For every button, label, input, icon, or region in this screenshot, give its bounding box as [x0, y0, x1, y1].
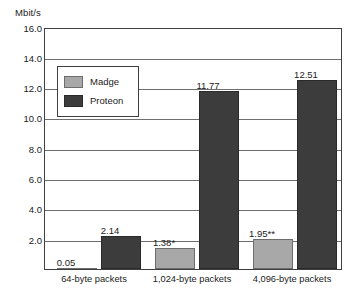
y-axis-tick-label: 12.0 [8, 84, 42, 94]
y-axis-tick-label: 16.0 [8, 24, 42, 34]
x-axis-category-label-64byte: 64-byte packets [44, 274, 144, 284]
data-label-proteon-4096byte: 12.51 [286, 70, 326, 80]
data-label-proteon-1024byte: 11.77 [188, 81, 228, 91]
data-label-madge-64byte: 0.05 [46, 258, 86, 268]
proteon-swatch-icon [64, 95, 83, 107]
y-axis-tick-label: 6.0 [8, 175, 42, 185]
y-axis-tick-label: 2.0 [8, 236, 42, 246]
data-label-madge-1024byte: 1.38* [144, 238, 184, 248]
x-axis-category-label-4096byte: 4,096-byte packets [240, 274, 344, 284]
legend-item-madge[interactable]: Madge [64, 72, 138, 91]
data-label-madge-4096byte: 1.95** [242, 229, 282, 239]
bar-proteon-4096byte[interactable] [297, 80, 337, 269]
bar-chart: Mbit/s 16.0 14.0 12.0 10.0 8.0 6.0 4.0 2… [0, 0, 356, 306]
data-label-proteon-64byte: 2.14 [90, 226, 130, 236]
y-axis-title: Mbit/s [15, 7, 41, 18]
bar-proteon-1024byte[interactable] [199, 91, 239, 269]
madge-swatch-icon [64, 76, 83, 88]
bar-madge-4096byte[interactable] [253, 239, 293, 269]
gridline [45, 59, 341, 60]
y-axis-tick-label: 4.0 [8, 205, 42, 215]
legend-label-proteon: Proteon [90, 96, 123, 106]
bar-madge-1024byte[interactable] [155, 248, 195, 269]
y-axis-tick-label: 8.0 [8, 145, 42, 155]
x-axis-category-label-1024byte: 1,024-byte packets [142, 274, 242, 284]
y-axis-tick-label: 10.0 [8, 114, 42, 124]
legend-label-madge: Madge [90, 77, 119, 87]
legend-item-proteon[interactable]: Proteon [64, 91, 138, 110]
bar-proteon-64byte[interactable] [101, 236, 141, 269]
plot-area [44, 28, 342, 270]
y-axis-tick-label: 14.0 [8, 54, 42, 64]
legend: Madge Proteon [57, 66, 139, 117]
